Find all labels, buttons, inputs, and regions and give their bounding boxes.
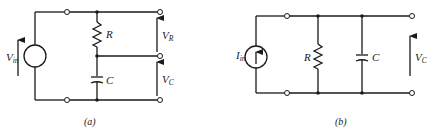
panel-caption: (a) xyxy=(84,116,96,128)
terminal xyxy=(285,91,290,96)
resistor-icon xyxy=(314,44,322,69)
junction-dot xyxy=(95,98,99,102)
source-label: Vin xyxy=(6,51,19,65)
output-terminal xyxy=(158,98,163,103)
resistor-label: R xyxy=(303,51,311,63)
capacitor-label: C xyxy=(372,51,380,63)
panel-a-series-rc: Vin R C VR VC (a) xyxy=(6,10,175,129)
output-terminal xyxy=(158,10,163,15)
resistor-icon xyxy=(93,22,101,47)
resistor-label: R xyxy=(105,28,113,40)
panel-caption: (b) xyxy=(335,116,347,128)
panel-b-parallel-rc: Iin R C VC (b) xyxy=(235,14,427,129)
output-terminal xyxy=(410,14,415,19)
circuit-figure: Vin R C VR VC (a) xyxy=(0,0,427,137)
terminal xyxy=(65,10,70,15)
terminal xyxy=(65,98,70,103)
capacitor-label: C xyxy=(106,74,114,86)
junction-dot xyxy=(316,91,320,95)
output-label-vc: VC xyxy=(162,73,175,87)
output-label-vr: VR xyxy=(162,29,174,43)
junction-dot xyxy=(360,14,364,18)
source-label: Iin xyxy=(235,49,246,63)
output-terminal xyxy=(410,91,415,96)
junction-dot xyxy=(95,10,99,14)
junction-dot xyxy=(95,54,99,58)
output-label-vc: VC xyxy=(415,51,427,65)
voltage-source-icon xyxy=(24,45,46,67)
junction-dot xyxy=(316,14,320,18)
terminal xyxy=(285,14,290,19)
junction-dot xyxy=(360,91,364,95)
output-terminal xyxy=(158,54,163,59)
